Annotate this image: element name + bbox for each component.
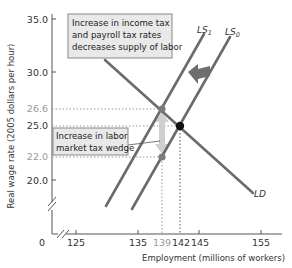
ld-label: LD bbox=[254, 189, 266, 199]
x-tick-0: 0 bbox=[39, 237, 45, 248]
supply-decrease-annotation: Increase in income tax and payroll tax r… bbox=[68, 14, 183, 58]
labor-market-chart: 35.0 30.0 26.6 25.0 22.0 20.0 0 125 135 … bbox=[0, 0, 292, 268]
svg-text:decreases supply of labor: decreases supply of labor bbox=[72, 42, 183, 52]
left-shift-arrow-icon bbox=[188, 64, 210, 84]
equilibrium-point bbox=[176, 122, 184, 130]
x-tick-139: 139 bbox=[153, 237, 171, 248]
y-tick-20: 20.0 bbox=[27, 175, 48, 186]
svg-text:market tax wedge: market tax wedge bbox=[56, 143, 134, 153]
y-axis bbox=[48, 14, 56, 234]
x-axis-title: Employment (millions of workers) bbox=[142, 253, 285, 263]
point-139-22 bbox=[158, 153, 165, 160]
y-tick-30: 30.0 bbox=[27, 67, 48, 78]
svg-text:Increase in income tax: Increase in income tax bbox=[72, 18, 170, 28]
svg-text:and payroll tax rates: and payroll tax rates bbox=[72, 30, 162, 40]
ls0-label: LS0 bbox=[225, 27, 240, 39]
x-ticks: 0 125 135 139 142 145 155 bbox=[39, 230, 270, 248]
y-axis-title: Real wage rate (2005 dollars per hour) bbox=[6, 44, 16, 209]
x-tick-155: 155 bbox=[252, 237, 270, 248]
point-139-26-6 bbox=[158, 105, 165, 112]
x-tick-145: 145 bbox=[191, 237, 209, 248]
y-tick-22: 22.0 bbox=[27, 151, 48, 162]
y-tick-35: 35.0 bbox=[27, 14, 48, 25]
x-tick-135: 135 bbox=[129, 237, 147, 248]
x-tick-125: 125 bbox=[67, 237, 85, 248]
x-tick-142: 142 bbox=[172, 237, 190, 248]
y-tick-25: 25.0 bbox=[27, 120, 48, 131]
ls1-curve bbox=[106, 34, 204, 206]
y-tick-26-6: 26.6 bbox=[27, 103, 48, 114]
svg-text:Increase in labor: Increase in labor bbox=[56, 131, 128, 141]
